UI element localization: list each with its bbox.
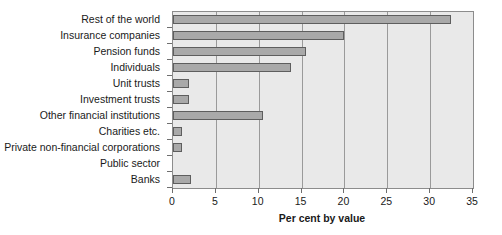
x-axis-tick [472, 188, 473, 193]
y-axis-category-labels: Rest of the worldInsurance companiesPens… [0, 11, 166, 187]
x-axis-tick-label: 0 [169, 195, 175, 207]
bar-row [173, 92, 473, 108]
bar-row [173, 44, 473, 60]
bar-chart: Rest of the worldInsurance companiesPens… [0, 0, 502, 235]
bar [173, 15, 451, 24]
y-axis-label: Private non-financial corporations [4, 139, 160, 155]
x-axis-tick-label: 20 [338, 195, 350, 207]
y-axis-label: Other financial institutions [40, 107, 160, 123]
x-axis-tick-label: 5 [212, 195, 218, 207]
x-axis-tick-label: 25 [380, 195, 392, 207]
bar [173, 127, 182, 136]
x-axis-title: Per cent by value [172, 212, 472, 224]
x-axis-tick [386, 188, 387, 193]
x-axis-tick [301, 188, 302, 193]
bar [173, 111, 263, 120]
x-axis-tick [258, 188, 259, 193]
bar [173, 47, 306, 56]
x-axis-tick [215, 188, 216, 193]
y-axis-label: Rest of the world [81, 11, 160, 27]
bar-row [173, 28, 473, 44]
y-axis-label: Investment trusts [80, 91, 160, 107]
bar [173, 175, 191, 184]
x-axis-tick-label: 35 [466, 195, 478, 207]
y-axis-label: Public sector [100, 155, 160, 171]
y-axis-label: Individuals [110, 59, 160, 75]
x-axis-tick [343, 188, 344, 193]
y-axis-label: Charities etc. [99, 123, 160, 139]
bar [173, 63, 291, 72]
bar [173, 31, 344, 40]
y-axis-label: Unit trusts [113, 75, 160, 91]
bar-row [173, 76, 473, 92]
bar-row [173, 12, 473, 28]
bar-row [173, 140, 473, 156]
x-axis-tick-label: 10 [252, 195, 264, 207]
bar-row [173, 124, 473, 140]
y-axis-label: Pension funds [93, 43, 160, 59]
y-axis-label: Insurance companies [60, 27, 160, 43]
bar [173, 143, 182, 152]
bar-row [173, 172, 473, 188]
x-axis-tick [172, 188, 173, 193]
bar-row [173, 156, 473, 172]
bar-row [173, 60, 473, 76]
x-axis-tick [429, 188, 430, 193]
bar [173, 79, 189, 88]
bar [173, 95, 189, 104]
bars-layer [173, 12, 473, 188]
y-axis-label: Banks [131, 171, 160, 187]
x-axis-tick-label: 30 [423, 195, 435, 207]
plot-area [172, 11, 474, 189]
bar-row [173, 108, 473, 124]
x-axis-tick-label: 15 [295, 195, 307, 207]
